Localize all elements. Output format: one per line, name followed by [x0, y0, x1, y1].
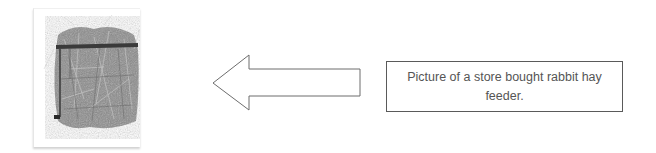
- left-arrow-icon: [212, 53, 362, 117]
- caption-box: Picture of a store bought rabbit hay fee…: [386, 61, 623, 112]
- hay-feeder-photo: [33, 8, 140, 147]
- hay-feeder-image-icon: [34, 9, 140, 147]
- caption-text: Picture of a store bought rabbit hay fee…: [387, 68, 622, 106]
